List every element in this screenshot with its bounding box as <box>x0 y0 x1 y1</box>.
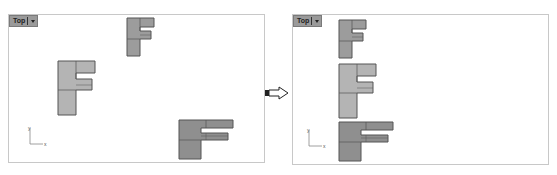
f-shape-large-aligned[interactable] <box>338 121 394 163</box>
viewport-right[interactable]: Top <box>292 14 549 165</box>
viewport-label-tab[interactable]: Top <box>9 15 38 27</box>
axis-indicator-left: y x <box>27 124 49 146</box>
f-shape-large[interactable] <box>178 119 234 161</box>
f-shape-small[interactable] <box>126 17 156 57</box>
chevron-down-icon[interactable] <box>31 20 35 23</box>
viewport-label: Top <box>13 16 25 26</box>
chevron-down-icon[interactable] <box>315 20 319 23</box>
f-shape-medium-aligned[interactable] <box>338 63 378 119</box>
viewport-label: Top <box>297 16 309 26</box>
separator <box>311 17 312 25</box>
svg-text:x: x <box>44 141 47 146</box>
arrow-right-icon <box>264 86 290 100</box>
svg-text:y: y <box>28 125 31 131</box>
f-shape-small-aligned[interactable] <box>338 19 368 59</box>
svg-text:y: y <box>307 127 310 133</box>
axis-indicator-right: y x <box>306 126 328 148</box>
f-shape-medium[interactable] <box>57 60 97 116</box>
separator <box>27 17 28 25</box>
viewport-label-tab[interactable]: Top <box>293 15 322 27</box>
svg-text:x: x <box>323 143 326 148</box>
